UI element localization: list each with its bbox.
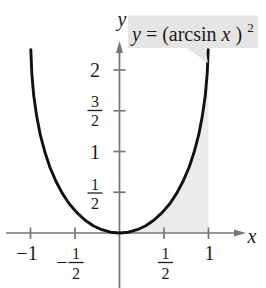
function-label: y = (arcsin x ) 2 [130, 20, 254, 46]
y-tick-label-3-2: 3 2 [88, 93, 103, 129]
y-tick-label-1: 1 [90, 141, 100, 163]
y-tick-label-2: 2 [90, 59, 100, 81]
x-tick-label-neg1-2: − 1 2 [56, 245, 83, 282]
y-tick-label-1-2: 1 2 [88, 176, 103, 212]
plot-area: y = (arcsin x ) 2 2 3 2 1 1 2 [0, 0, 266, 288]
x-axis-arrow-icon [234, 230, 246, 237]
x-tick-label-1: 1 [205, 242, 215, 264]
fraction-denominator: 2 [91, 112, 99, 129]
fraction-numerator: 1 [72, 245, 80, 262]
fraction-numerator: 1 [91, 176, 99, 193]
callout-pointer-icon [184, 46, 208, 63]
fraction-denominator: 2 [91, 195, 99, 212]
fraction-denominator: 2 [162, 265, 170, 282]
x-tick-labels: −1 − 1 2 1 2 1 [16, 242, 214, 282]
function-label-close: ) [235, 23, 242, 46]
function-label-callout: y = (arcsin x ) 2 [128, 16, 258, 64]
fraction-denominator: 2 [72, 265, 80, 282]
fraction-numerator: 3 [91, 93, 99, 110]
y-axis-arrow-icon [116, 41, 123, 53]
shaded-region [120, 50, 209, 233]
function-label-y: y [130, 23, 141, 46]
function-plot-figure: y = (arcsin x ) 2 2 3 2 1 1 2 [0, 0, 266, 288]
y-tick-labels: 2 3 2 1 1 2 [88, 59, 103, 212]
function-label-x: x [221, 23, 231, 45]
function-label-exponent: 2 [247, 20, 254, 35]
minus-sign: − [56, 251, 67, 273]
function-label-eq: = (arcsin [146, 23, 222, 46]
x-tick-label-1-2: 1 2 [158, 245, 173, 282]
y-axis-label: y [116, 8, 127, 31]
x-axis-label: x [247, 225, 257, 247]
fraction-numerator: 1 [162, 245, 170, 262]
x-tick-label-neg1: −1 [16, 242, 37, 264]
